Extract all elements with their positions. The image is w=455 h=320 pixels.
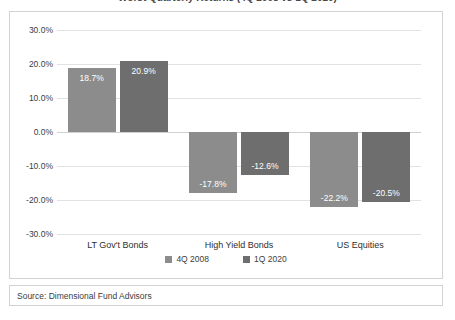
source-note-text: Source: Dimensional Fund Advisors — [10, 291, 152, 301]
legend-item: 1Q 2020 — [243, 254, 287, 264]
legend-label: 4Q 2008 — [176, 254, 209, 264]
source-note-box: Source: Dimensional Fund Advisors — [9, 285, 443, 306]
bar-value-label: -20.5% — [362, 188, 410, 198]
bar: -22.2% — [310, 132, 358, 207]
chart-panel: 30.0%20.0%10.0%0.0%-10.0%-20.0%-30.0% 18… — [9, 11, 443, 279]
x-axis-category-label: High Yield Bonds — [205, 240, 274, 250]
y-axis-tick-label: 20.0% — [10, 59, 53, 69]
bar-value-label: -17.8% — [189, 179, 237, 189]
y-axis-tick-label: -20.0% — [10, 195, 53, 205]
x-axis-category-label: LT Gov't Bonds — [87, 240, 148, 250]
bar-value-label: -12.6% — [241, 161, 289, 171]
clipped-chart-title-text: Worst Quarterly Returns (4Q 2008 vs 1Q 2… — [0, 0, 455, 3]
legend-swatch-icon — [243, 256, 250, 263]
y-axis-tick-label: 10.0% — [10, 93, 53, 103]
chart-legend: 4Q 20081Q 2020 — [10, 254, 442, 264]
clipped-chart-title: Worst Quarterly Returns (4Q 2008 vs 1Q 2… — [0, 0, 455, 9]
bar-value-label: -22.2% — [310, 193, 358, 203]
bar-value-label: 18.7% — [68, 73, 116, 83]
x-axis-category-label: US Equities — [337, 240, 384, 250]
bar: -17.8% — [189, 132, 237, 193]
bar: -20.5% — [362, 132, 410, 202]
y-axis-tick-label: 30.0% — [10, 25, 53, 35]
legend-swatch-icon — [165, 256, 172, 263]
y-axis-tick-label: -10.0% — [10, 161, 53, 171]
legend-label: 1Q 2020 — [254, 254, 287, 264]
bar: 20.9% — [120, 61, 168, 132]
gridline-30 — [57, 30, 421, 31]
legend-item: 4Q 2008 — [165, 254, 209, 264]
gridline-neg30 — [57, 234, 421, 235]
y-axis-tick-label: -30.0% — [10, 229, 53, 239]
bar-value-label: 20.9% — [120, 66, 168, 76]
gridline-20 — [57, 64, 421, 65]
bar: 18.7% — [68, 68, 116, 132]
y-axis-tick-label: 0.0% — [10, 127, 53, 137]
plot-area: 30.0%20.0%10.0%0.0%-10.0%-20.0%-30.0% 18… — [10, 12, 442, 252]
bar: -12.6% — [241, 132, 289, 175]
